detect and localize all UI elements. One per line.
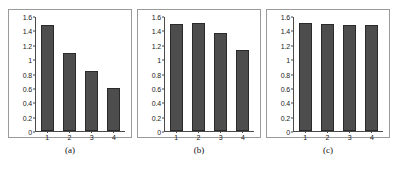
bar [85,71,98,131]
y-tick-label: 1.4 [281,28,290,35]
plot-area-b: 1234 [164,17,254,132]
y-tick-label: 0 [286,129,290,136]
x-tick-label: 3 [210,134,232,141]
bar-slot [81,17,103,131]
bar-slot [210,17,232,131]
y-tick-label: 1 [286,57,290,64]
y-tick-label: 1.6 [281,14,290,21]
plot-frame-b: 1.61.41.210.80.60.40.20 1234 [137,9,261,138]
x-tick-label: 2 [58,134,80,141]
bar [107,88,120,131]
y-tick-label: 1.2 [281,42,290,49]
x-tick-label: 4 [361,134,383,141]
y-tick-label: 1.2 [23,42,32,49]
bar-slot [187,17,209,131]
y-tick-label: 0.4 [281,100,290,107]
plot-area-a: 1234 [35,17,125,132]
plot-frame-c: 1.61.41.210.80.60.40.20 1234 [266,9,390,138]
bar [170,24,183,131]
x-tick-label: 1 [36,134,58,141]
y-tick-label: 1.6 [152,14,161,21]
y-tick-label: 0.6 [23,85,32,92]
chart-panel-c: 1.61.41.210.80.60.40.20 1234 (c) [266,9,390,155]
x-axis-labels-c: 1234 [294,131,383,143]
bar [214,33,227,131]
bar-chart-figure: 1.61.41.210.80.60.40.20 1234 (a) 1.61.41… [0,0,398,181]
bar-group-a [36,17,125,131]
bar-group-b [165,17,254,131]
bar-slot [165,17,187,131]
y-tick-label: 0.8 [281,71,290,78]
bar [365,25,378,131]
y-tick-label: 0.4 [152,100,161,107]
bar [41,25,54,131]
x-tick-label: 4 [103,134,125,141]
y-tick-label: 0.2 [152,114,161,121]
plot-frame-a: 1.61.41.210.80.60.40.20 1234 [8,9,132,138]
bar-slot [232,17,254,131]
x-axis-labels-b: 1234 [165,131,254,143]
y-axis-labels-c: 1.61.41.210.80.60.40.20 [272,17,293,132]
x-tick-label: 3 [339,134,361,141]
bar-slot [103,17,125,131]
plot-area-c: 1234 [293,17,383,132]
bar-slot [316,17,338,131]
x-tick-label: 1 [165,134,187,141]
x-tick-label: 4 [232,134,254,141]
y-tick-label: 0.2 [23,114,32,121]
bar-slot [36,17,58,131]
y-tick-label: 0.4 [23,100,32,107]
y-tick-label: 1.4 [23,28,32,35]
bar-slot [58,17,80,131]
bar [299,23,312,131]
chart-panel-a: 1.61.41.210.80.60.40.20 1234 (a) [8,9,132,155]
x-tick-label: 2 [316,134,338,141]
x-tick-label: 3 [81,134,103,141]
y-tick-label: 0.6 [281,85,290,92]
y-axis-labels-b: 1.61.41.210.80.60.40.20 [143,17,164,132]
y-tick-label: 0.6 [152,85,161,92]
panel-caption-b: (b) [194,145,205,155]
bar [321,24,334,131]
bar-slot [294,17,316,131]
y-tick-label: 0.2 [281,114,290,121]
x-tick-label: 1 [294,134,316,141]
y-tick-label: 0 [157,129,161,136]
y-axis-labels-a: 1.61.41.210.80.60.40.20 [14,17,35,132]
y-tick-label: 0 [28,129,32,136]
bar-slot [339,17,361,131]
bar [192,23,205,131]
bar [343,25,356,131]
bar-group-c [294,17,383,131]
y-tick-label: 1.6 [23,14,32,21]
bar [63,53,76,131]
y-tick-label: 1 [157,57,161,64]
y-tick-label: 1 [28,57,32,64]
x-tick-label: 2 [187,134,209,141]
y-tick-label: 0.8 [23,71,32,78]
y-tick-label: 1.4 [152,28,161,35]
x-axis-labels-a: 1234 [36,131,125,143]
y-tick-label: 0.8 [152,71,161,78]
bar [236,50,249,131]
chart-panel-b: 1.61.41.210.80.60.40.20 1234 (b) [137,9,261,155]
bar-slot [361,17,383,131]
y-tick-label: 1.2 [152,42,161,49]
panel-caption-a: (a) [65,145,75,155]
panel-caption-c: (c) [323,145,333,155]
